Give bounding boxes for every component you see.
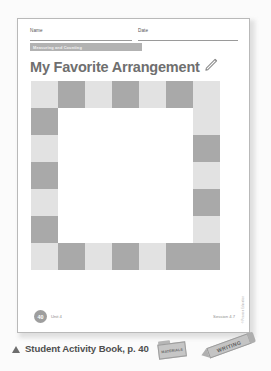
grid-cell[interactable] — [193, 108, 220, 135]
grid-cell[interactable] — [193, 135, 220, 162]
grid-cell[interactable] — [31, 81, 58, 108]
scanned-page-root: Name Date Measuring and Counting My Favo… — [0, 0, 271, 371]
caption-row: Student Activity Book, p. 40 MATERIALS W… — [12, 335, 271, 365]
folder-tag-body: MATERIALS — [157, 341, 187, 359]
unit-banner: Measuring and Counting — [30, 43, 142, 51]
grid-cell[interactable] — [31, 108, 58, 135]
grid-cell[interactable] — [193, 243, 220, 270]
grid-cell[interactable] — [85, 81, 112, 108]
grid-cell[interactable] — [31, 162, 58, 189]
grid-cell[interactable] — [193, 216, 220, 243]
grid-cell[interactable] — [166, 81, 193, 108]
unit-note: Unit 4 — [51, 314, 62, 319]
grid-cell[interactable] — [193, 162, 220, 189]
name-field[interactable]: Name — [30, 28, 132, 41]
grid-cell[interactable] — [31, 189, 58, 216]
grid-cell[interactable] — [166, 243, 193, 270]
worksheet-sheet: Name Date Measuring and Counting My Favo… — [17, 18, 250, 333]
page-number-badge: 40 — [34, 310, 47, 323]
grid-cell[interactable] — [193, 81, 220, 108]
date-field-label: Date — [138, 28, 148, 34]
session-note: Session 4.7 — [213, 314, 235, 319]
grid-cell[interactable] — [31, 243, 58, 270]
grid-cell[interactable] — [112, 81, 139, 108]
page-title: My Favorite Arrangement — [30, 59, 200, 75]
unit-banner-label: Measuring and Counting — [30, 45, 82, 50]
caption-text: Student Activity Book, p. 40 — [25, 343, 149, 354]
name-field-label: Name — [30, 28, 43, 34]
grid-cell[interactable] — [139, 243, 166, 270]
grid-cell[interactable] — [139, 81, 166, 108]
date-field[interactable]: Date — [138, 28, 238, 41]
grid-cell[interactable] — [31, 216, 58, 243]
sheet-footer: 40 Unit 4 Session 4.7 — [18, 310, 249, 324]
grid-cell[interactable] — [112, 243, 139, 270]
checkerboard-grid[interactable] — [31, 81, 220, 270]
folder-tag-label: MATERIALS — [161, 347, 183, 354]
grid-cell[interactable] — [58, 81, 85, 108]
pencil-tag-label: WRITING — [216, 339, 242, 353]
worksheet-title-row: My Favorite Arrangement — [30, 57, 219, 76]
folder-tag: MATERIALS — [157, 338, 187, 360]
pencil-tag-shaft: WRITING — [206, 333, 251, 358]
pencil-icon — [204, 57, 219, 76]
grid-cell[interactable] — [85, 243, 112, 270]
name-date-row: Name Date — [30, 28, 238, 41]
grid-cell[interactable] — [31, 135, 58, 162]
grid-cell[interactable] — [58, 243, 85, 270]
triangle-up-icon — [12, 346, 20, 353]
grid-cell[interactable] — [193, 189, 220, 216]
